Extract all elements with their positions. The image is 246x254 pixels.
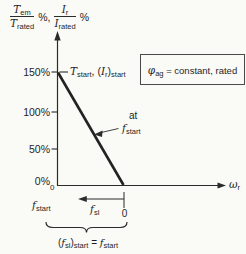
pointer-arrow-shaft bbox=[100, 129, 119, 133]
current-denominator: Irated bbox=[54, 16, 75, 29]
x-axis-arrowhead-icon bbox=[218, 182, 227, 188]
current-numerator: Ir bbox=[62, 4, 69, 16]
slip-arrowhead-icon bbox=[78, 196, 87, 202]
y-tick-label-0: 0% bbox=[18, 175, 50, 187]
y-tick-label-50: 50% bbox=[18, 143, 50, 155]
x-axis-label: ωr bbox=[229, 178, 240, 190]
torque-current-line bbox=[58, 73, 124, 186]
y-tick-label-100: 100% bbox=[18, 106, 50, 118]
torque-numerator: Tem bbox=[13, 4, 30, 16]
current-ratio-fraction: Ir Irated bbox=[54, 4, 75, 29]
percent-comma: %, bbox=[38, 11, 50, 23]
underbrace bbox=[46, 222, 127, 233]
start-point-label: Tstart, (Ir)start bbox=[70, 65, 126, 77]
y-tick-label-150: 150% bbox=[18, 66, 50, 78]
at-frequency-label: fstart bbox=[122, 122, 140, 134]
motor-start-characteristic-figure: Tem Trated %, Ir Irated % 150% 100% 50% … bbox=[0, 0, 246, 254]
slip-equality-equation: (fsl)start = fstart bbox=[42, 237, 134, 248]
flux-condition-text: φag = constant, rated bbox=[148, 64, 237, 76]
y-axis-arrowhead-icon bbox=[54, 31, 60, 41]
origin-zero-label: 0 bbox=[50, 183, 54, 192]
torque-ratio-fraction: Tem Trated bbox=[10, 4, 34, 29]
axis-units-header: Tem Trated %, Ir Irated % bbox=[10, 4, 89, 29]
flux-condition-box: φag = constant, rated bbox=[140, 54, 245, 85]
f-start-label: fstart bbox=[32, 199, 50, 211]
percent-sign: % bbox=[80, 11, 89, 23]
f-sl-label: fsl bbox=[90, 203, 99, 215]
slip-zero-label: 0 bbox=[120, 208, 129, 219]
at-word-label: at bbox=[129, 110, 137, 121]
torque-denominator: Trated bbox=[10, 16, 34, 29]
